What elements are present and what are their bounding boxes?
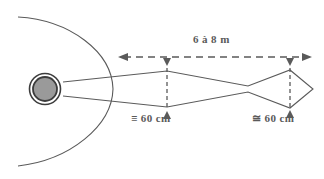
span-distance-right-arrowhead	[302, 53, 312, 61]
span-distance-label: 6 à 8 m	[193, 33, 230, 45]
near-width-label: ≡ 60 cm	[131, 112, 171, 124]
far-width-top-arrowhead	[286, 58, 294, 66]
span-distance-left-arrowhead	[118, 53, 128, 61]
far-width-label: ≅ 60 cm	[252, 112, 294, 125]
diagram-canvas: 6 à 8 m ≡ 60 cm ≅ 60 cm	[0, 0, 324, 179]
ball-inner-ring	[33, 77, 57, 101]
diagram-graphics	[0, 0, 324, 179]
beam-outline	[63, 70, 313, 108]
near-width-top-arrowhead	[163, 58, 171, 66]
